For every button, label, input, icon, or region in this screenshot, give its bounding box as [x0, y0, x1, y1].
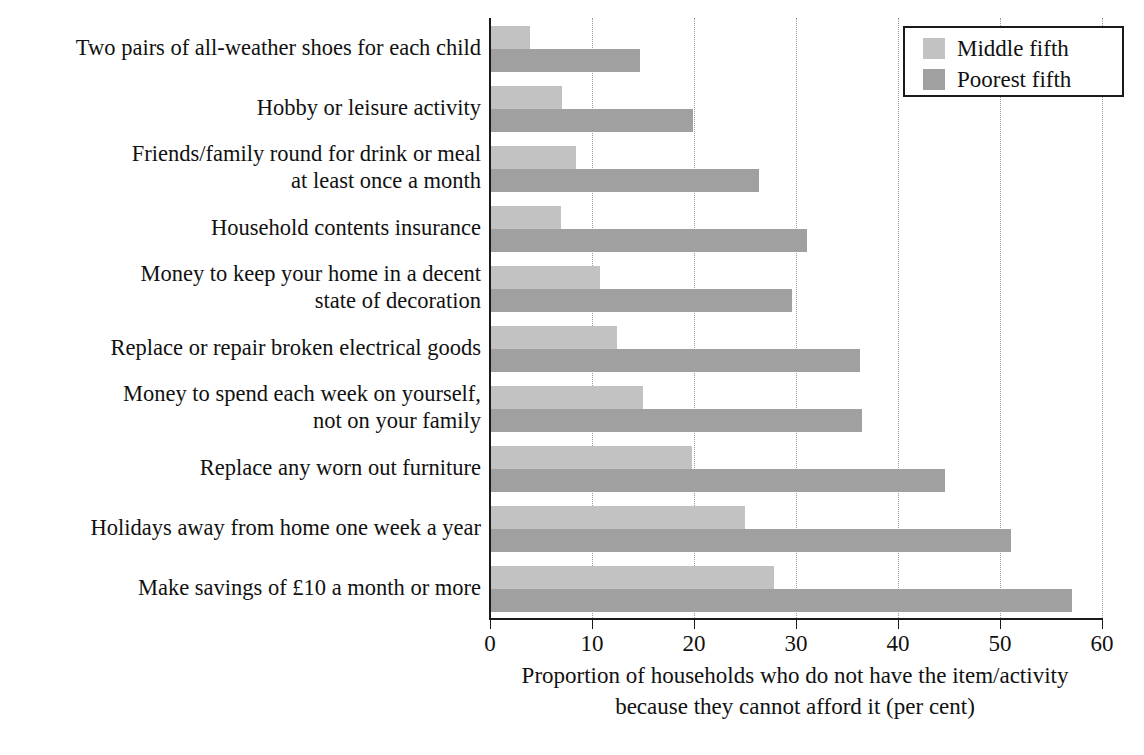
x-tick-label-0: 0: [460, 630, 520, 657]
category-label: Replace any worn out furniture: [200, 454, 481, 481]
bar-poorest-fifth: [491, 289, 792, 312]
category-label: Two pairs of all-weather shoes for each …: [76, 34, 481, 61]
x-axis-title: Proportion of households who do not have…: [445, 660, 1144, 722]
bar-middle-fifth: [491, 446, 692, 469]
legend: Middle fifth Poorest fifth: [903, 26, 1124, 97]
bar-middle-fifth: [491, 26, 530, 49]
legend-swatch-poorest-fifth: [923, 69, 945, 90]
legend-label-middle-fifth: Middle fifth: [957, 36, 1069, 61]
bar-poorest-fifth: [491, 589, 1072, 612]
x-tick-label-60: 60: [1072, 630, 1132, 657]
chart-row: Household contents insurance: [0, 198, 1144, 258]
bar-poorest-fifth: [491, 109, 693, 132]
category-label: Friends/family round for drink or meal a…: [132, 140, 481, 194]
x-tick-label-20: 20: [664, 630, 724, 657]
chart-row: Holidays away from home one week a year: [0, 498, 1144, 558]
bar-poorest-fifth: [491, 349, 860, 372]
x-tick-50: [1000, 620, 1001, 629]
bar-poorest-fifth: [491, 229, 807, 252]
bar-middle-fifth: [491, 326, 617, 349]
bar-poorest-fifth: [491, 529, 1011, 552]
bar-poorest-fifth: [491, 469, 945, 492]
x-tick-40: [898, 620, 899, 629]
y-axis-line: [489, 18, 491, 619]
bar-middle-fifth: [491, 146, 576, 169]
x-tick-10: [592, 620, 593, 629]
chart-row: Money to keep your home in a decent stat…: [0, 258, 1144, 318]
x-tick-30: [796, 620, 797, 629]
x-tick-label-40: 40: [868, 630, 928, 657]
bar-poorest-fifth: [491, 49, 640, 72]
category-label: Holidays away from home one week a year: [91, 514, 481, 541]
bar-middle-fifth: [491, 266, 600, 289]
category-label: Household contents insurance: [211, 214, 481, 241]
chart-row: Money to spend each week on yourself, no…: [0, 378, 1144, 438]
bar-middle-fifth: [491, 566, 774, 589]
x-tick-60: [1102, 620, 1103, 629]
legend-swatch-middle-fifth: [923, 38, 945, 59]
category-label: Money to spend each week on yourself, no…: [123, 380, 481, 434]
x-tick-label-50: 50: [970, 630, 1030, 657]
chart-row: Friends/family round for drink or meal a…: [0, 138, 1144, 198]
x-tick-0: [490, 620, 491, 629]
legend-label-poorest-fifth: Poorest fifth: [957, 67, 1071, 92]
bar-poorest-fifth: [491, 409, 862, 432]
bar-chart: Two pairs of all-weather shoes for each …: [0, 0, 1144, 755]
category-label: Replace or repair broken electrical good…: [111, 334, 481, 361]
legend-item-poorest-fifth: Poorest fifth: [923, 64, 1122, 95]
legend-item-middle-fifth: Middle fifth: [923, 33, 1122, 64]
bar-middle-fifth: [491, 386, 643, 409]
x-tick-20: [694, 620, 695, 629]
chart-row: Replace or repair broken electrical good…: [0, 318, 1144, 378]
bar-poorest-fifth: [491, 169, 759, 192]
bar-middle-fifth: [491, 506, 745, 529]
category-label: Make savings of £10 a month or more: [138, 574, 481, 601]
category-label: Money to keep your home in a decent stat…: [140, 260, 481, 314]
category-label: Hobby or leisure activity: [257, 94, 481, 121]
x-tick-label-30: 30: [766, 630, 826, 657]
chart-row: Make savings of £10 a month or more: [0, 558, 1144, 618]
bar-middle-fifth: [491, 206, 561, 229]
bar-middle-fifth: [491, 86, 562, 109]
x-tick-label-10: 10: [562, 630, 622, 657]
chart-row: Replace any worn out furniture: [0, 438, 1144, 498]
